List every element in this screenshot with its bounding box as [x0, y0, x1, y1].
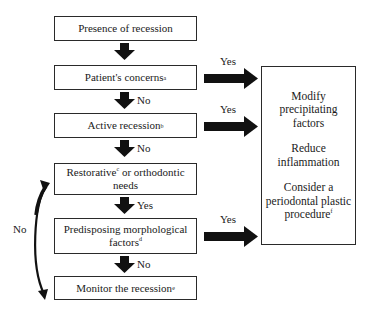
- action-modify-factors: Modify precipitating factors: [274, 90, 344, 131]
- action-periodontal-procedure: Consider a periodontal plastic procedure…: [264, 181, 354, 222]
- action-box: Modify precipitating factors Reduce infl…: [261, 66, 356, 245]
- right-arrow-2: [204, 116, 258, 137]
- label-no-2: No: [137, 142, 150, 154]
- step-presence-of-recession: Presence of recession: [54, 16, 197, 41]
- down-arrow-1: [114, 43, 135, 60]
- step-predisposing-morphological-factors: Predisposing morphological factorsd: [54, 218, 197, 254]
- label-no-1: No: [137, 94, 150, 106]
- right-arrow-1: [204, 68, 258, 89]
- down-arrow-5: [114, 256, 135, 273]
- down-arrow-3: [114, 140, 135, 157]
- label-yes-2: Yes: [220, 103, 236, 115]
- step-monitor-the-recession: Monitor the recessione: [54, 276, 197, 300]
- down-arrow-4: [114, 197, 135, 214]
- label-no-3: No: [137, 258, 150, 270]
- label-yes-3: Yes: [220, 213, 236, 225]
- step-active-recession: Active recessionb: [54, 113, 197, 138]
- label-yes-1: Yes: [220, 55, 236, 67]
- step-patients-concerns: Patient's concernsa: [54, 65, 197, 90]
- down-arrow-2: [114, 92, 135, 109]
- label-bypass-no: No: [13, 223, 26, 235]
- label-yes-down: Yes: [137, 199, 153, 211]
- bypass-arrow: [35, 180, 50, 300]
- step-restorative-orthodontic-needs: Restorativec or orthodontic needs: [54, 163, 197, 195]
- right-arrow-3: [204, 226, 258, 247]
- action-reduce-inflammation: Reduce inflammation: [269, 142, 349, 169]
